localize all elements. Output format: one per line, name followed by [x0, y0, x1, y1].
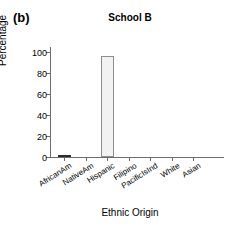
figure-panel-b: (b) School B Percentage 020406080100 Afr…	[0, 0, 230, 227]
y-tick-label: 20	[37, 132, 47, 141]
panel-label: (b)	[13, 11, 30, 24]
y-tick-label: 40	[37, 111, 47, 120]
y-axis-spine	[50, 47, 51, 158]
x-tick-mark	[172, 158, 173, 161]
plot-area: 020406080100	[50, 47, 224, 158]
x-tick-mark	[107, 158, 108, 161]
x-axis-spine	[50, 157, 224, 158]
bar-hispanic	[101, 56, 114, 157]
y-tick-label: 100	[32, 48, 47, 57]
x-tick-mark	[193, 158, 194, 161]
y-tick-label: 80	[37, 69, 47, 78]
chart-title: School B	[50, 13, 210, 23]
x-tick-mark	[129, 158, 130, 161]
x-tick-mark	[86, 158, 87, 161]
bar-africanam	[58, 155, 71, 157]
y-tick-label: 60	[37, 90, 47, 99]
x-tick-mark	[64, 158, 65, 161]
y-tick-label: 0	[42, 153, 47, 162]
x-tick-mark	[150, 158, 151, 161]
y-axis-title: Percentage	[0, 15, 8, 66]
x-axis-title: Ethnic Origin	[40, 208, 220, 218]
